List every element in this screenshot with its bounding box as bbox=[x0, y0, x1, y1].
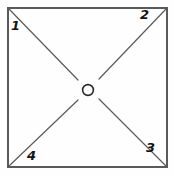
corner-label-top-left: 1 bbox=[11, 19, 20, 32]
center-circle-icon bbox=[83, 85, 94, 96]
corner-label-bottom-left: 4 bbox=[27, 149, 36, 162]
corner-label-bottom-right: 3 bbox=[146, 141, 155, 154]
diagonal-bottom-right-to-center bbox=[99, 99, 166, 166]
diagonal-top-right-to-center bbox=[99, 9, 166, 79]
diagram-canvas: 1 2 3 4 bbox=[0, 0, 174, 176]
diagonal-bottom-left-to-center bbox=[9, 100, 78, 166]
corner-label-top-right: 2 bbox=[140, 8, 149, 21]
